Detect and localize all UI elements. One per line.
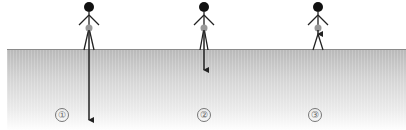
figure-label-3: ③	[308, 108, 322, 122]
figure-label-1: ①	[55, 108, 69, 122]
diagram: ① ② ③	[0, 0, 406, 130]
stick-figure-2	[194, 2, 214, 70]
stick-figure-3	[308, 2, 328, 50]
figure-label-2: ②	[197, 108, 211, 122]
stick-figure-1	[79, 2, 99, 120]
